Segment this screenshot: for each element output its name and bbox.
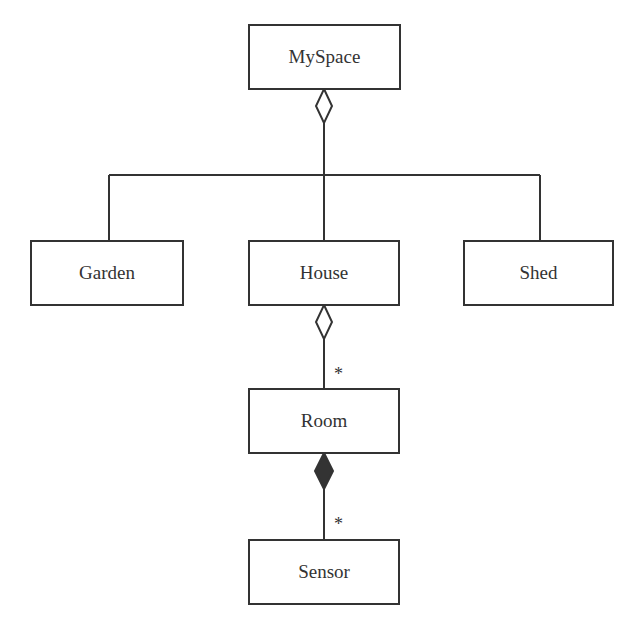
class-label: Sensor — [298, 561, 350, 583]
class-label: Garden — [79, 262, 135, 284]
class-label: Room — [301, 410, 347, 432]
aggregation-diamond-icon — [316, 305, 332, 339]
class-myspace: MySpace — [248, 24, 401, 90]
connectors — [0, 0, 638, 625]
multiplicity-room: * — [334, 364, 343, 385]
class-sensor: Sensor — [248, 539, 400, 605]
class-shed: Shed — [463, 240, 614, 306]
class-garden: Garden — [30, 240, 184, 306]
multiplicity-sensor: * — [334, 514, 343, 535]
class-label: Shed — [520, 262, 558, 284]
composition-diamond-icon — [315, 453, 333, 489]
class-room: Room — [248, 388, 400, 454]
class-label: MySpace — [289, 46, 361, 68]
class-house: House — [248, 240, 400, 306]
class-label: House — [300, 262, 349, 284]
aggregation-diamond-icon — [316, 89, 332, 123]
